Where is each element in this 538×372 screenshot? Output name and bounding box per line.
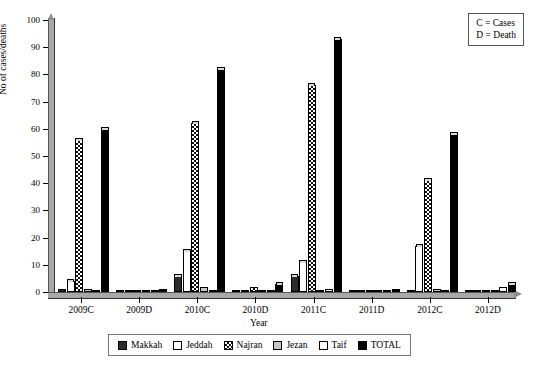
bar-total-2009c[interactable]: [101, 129, 109, 292]
y-axis-tick: [43, 102, 48, 103]
y-axis-tick: [43, 74, 48, 75]
legend-item-najran[interactable]: Najran: [224, 340, 263, 350]
annotation-box: C = Cases D = Death: [468, 13, 524, 46]
legend-label: Jeddah: [186, 340, 212, 350]
bar-top-cap: [101, 127, 109, 130]
bar-jezan-2012c[interactable]: [433, 289, 441, 292]
bar-taif-2011d[interactable]: [383, 290, 391, 292]
bar-makkah-2009c[interactable]: [58, 289, 66, 292]
y-axis-tick: [43, 47, 48, 48]
bar-jeddah-2009c[interactable]: [67, 281, 75, 292]
bar-jeddah-2012d[interactable]: [473, 290, 481, 292]
y-axis-tick: [43, 210, 48, 211]
x-axis-tick-label-2010c: 2010C: [185, 305, 210, 316]
bar-jeddah-2012c[interactable]: [415, 246, 423, 292]
legend-label: Najran: [237, 340, 263, 350]
bar-total-2011c[interactable]: [334, 39, 342, 292]
bar-jeddah-2010d[interactable]: [241, 290, 249, 292]
bar-taif-2009c[interactable]: [92, 290, 100, 292]
x-axis-tick: [255, 297, 256, 303]
legend-item-jezan[interactable]: Jezan: [273, 340, 307, 350]
bar-najran-2009d[interactable]: [133, 290, 141, 292]
y-axis-tick: [43, 129, 48, 130]
x-axis-tick-label-2012c: 2012C: [417, 305, 442, 316]
bar-jezan-2011c[interactable]: [316, 290, 324, 292]
y-axis-tick: [43, 183, 48, 184]
bar-jezan-2011d[interactable]: [374, 290, 382, 292]
bar-makkah-2009d[interactable]: [116, 290, 124, 292]
bar-chart-figure: 0102030405060708090100 2009C2009D2010C20…: [0, 0, 538, 372]
bar-makkah-2010c[interactable]: [174, 276, 182, 292]
bar-total-2009d[interactable]: [159, 289, 167, 292]
x-axis-tick-label-2009d: 2009D: [126, 305, 152, 316]
bar-top-cap: [183, 249, 191, 252]
bar-najran-2012d[interactable]: [482, 290, 490, 292]
bar-makkah-2012d[interactable]: [465, 290, 473, 292]
bar-jezan-2012d[interactable]: [491, 290, 499, 292]
bar-makkah-2010d[interactable]: [232, 290, 240, 292]
legend-item-makkah[interactable]: Makkah: [118, 340, 162, 350]
bar-top-cap: [174, 274, 182, 277]
legend-item-taif[interactable]: Taif: [319, 340, 347, 350]
bar-taif-2010d[interactable]: [267, 290, 275, 292]
bar-group: [110, 20, 168, 292]
legend-label: TOTAL: [371, 340, 401, 350]
bar-najran-2012c[interactable]: [424, 180, 432, 292]
legend-item-total[interactable]: TOTAL: [358, 340, 401, 350]
bar-jezan-2010c[interactable]: [200, 287, 208, 292]
bar-group: [52, 20, 110, 292]
y-axis-tick-label: 80: [31, 70, 40, 79]
bar-jeddah-2011d[interactable]: [357, 290, 365, 292]
bar-taif-2011c[interactable]: [325, 289, 333, 292]
bar-jezan-2010d[interactable]: [258, 290, 266, 292]
bar-top-cap: [334, 37, 342, 40]
bar-jezan-2009d[interactable]: [142, 290, 150, 292]
legend-item-jeddah[interactable]: Jeddah: [173, 340, 212, 350]
bar-total-2012d[interactable]: [508, 284, 516, 292]
bar-makkah-2011c[interactable]: [291, 276, 299, 292]
y-axis-tick-label: 50: [31, 152, 40, 161]
x-axis-spine: [48, 292, 516, 299]
y-axis-tick-label: 90: [31, 43, 40, 52]
bar-najran-2011d[interactable]: [366, 290, 374, 292]
y-axis-tick: [43, 20, 48, 21]
bar-top-cap: [416, 244, 424, 247]
y-axis-tick-label: 60: [31, 124, 40, 133]
bar-najran-2010c[interactable]: [191, 123, 199, 292]
legend-label: Jezan: [286, 340, 307, 350]
bar-taif-2009d[interactable]: [151, 290, 159, 292]
bar-makkah-2011d[interactable]: [349, 290, 357, 292]
bar-taif-2012c[interactable]: [441, 290, 449, 292]
bar-group: [168, 20, 226, 292]
bar-group: [285, 20, 343, 292]
x-axis-tick-label-2012d: 2012D: [475, 305, 501, 316]
x-axis-tick: [139, 297, 140, 303]
bar-total-2011d[interactable]: [392, 289, 400, 292]
bar-total-2010c[interactable]: [217, 69, 225, 292]
bar-najran-2010d[interactable]: [250, 287, 258, 292]
bar-taif-2012d[interactable]: [499, 287, 507, 292]
y-axis-tick: [43, 156, 48, 157]
bar-najran-2009c[interactable]: [75, 140, 83, 292]
bar-jezan-2009c[interactable]: [84, 289, 92, 292]
x-axis-tick-label-2010d: 2010D: [243, 305, 269, 316]
x-axis-tick: [430, 297, 431, 303]
annotation-line-cases: C = Cases: [476, 17, 516, 29]
y-axis-tick-label: 20: [31, 233, 40, 242]
x-axis-tick: [197, 297, 198, 303]
bar-group: [226, 20, 284, 292]
bar-jeddah-2009d[interactable]: [125, 290, 133, 292]
bar-najran-2011c[interactable]: [308, 85, 316, 292]
bar-jeddah-2010c[interactable]: [183, 251, 191, 292]
bar-makkah-2012c[interactable]: [407, 290, 415, 292]
bar-top-cap: [192, 121, 200, 124]
bar-jeddah-2011c[interactable]: [299, 262, 307, 292]
y-axis-label: No of cases/deaths: [0, 0, 8, 95]
x-axis-tick: [314, 297, 315, 303]
bar-total-2012c[interactable]: [450, 134, 458, 292]
bar-top-cap: [308, 83, 316, 86]
bar-total-2010d[interactable]: [275, 284, 283, 292]
bar-group: [343, 20, 401, 292]
legend-label: Makkah: [131, 340, 162, 350]
bar-taif-2010c[interactable]: [209, 290, 217, 292]
